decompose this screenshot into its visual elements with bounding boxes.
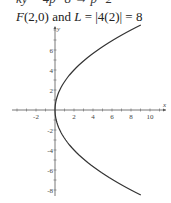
x-tick-label: 10: [147, 113, 155, 121]
parabola-plot: xy -2246810-8-6-4-2246: [0, 0, 171, 203]
y-tick-label: -4: [47, 147, 53, 155]
y-tick-label: -8: [47, 187, 53, 195]
y-tick-label: 4: [50, 67, 54, 75]
ticks: -2246810-8-6-4-2246: [17, 30, 160, 195]
y-tick-label: 6: [50, 47, 54, 55]
y-axis-label: y: [56, 25, 61, 33]
y-tick-label: -6: [47, 167, 53, 175]
x-tick-label: 2: [72, 113, 76, 121]
y-tick-label: -2: [47, 127, 53, 135]
x-tick-label: 8: [129, 113, 133, 121]
x-tick-label: -2: [33, 113, 39, 121]
y-tick-label: 2: [50, 87, 54, 95]
x-axis-label: x: [162, 101, 167, 109]
axes: xy: [12, 25, 167, 196]
x-tick-label: 4: [91, 113, 95, 121]
x-tick-label: 6: [110, 113, 114, 121]
